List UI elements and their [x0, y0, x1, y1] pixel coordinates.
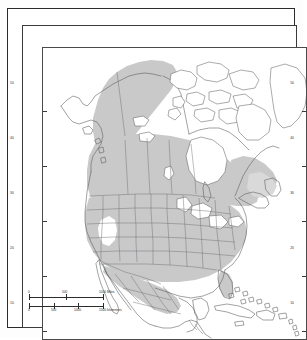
lat-tick-10-left [43, 331, 47, 332]
scale-label-km-500: 500 [51, 309, 56, 312]
lat-tick-50-left [43, 111, 47, 112]
lat-label-20-right: 20 [290, 247, 294, 250]
lat-label-50-right: 50 [290, 82, 294, 85]
outer-frame: .coast{fill:none;stroke:#55565a;stroke-w… [7, 8, 295, 328]
lat-label-30-right: 30 [290, 192, 294, 195]
lat-tick-20-left [43, 276, 47, 277]
lat-label-10-right: 10 [290, 302, 294, 305]
scale-label-km-1000: 1000 [74, 309, 81, 312]
lat-tick-40-right [302, 166, 306, 167]
scale-label-km-0: 0 [28, 309, 30, 312]
scale-tick-mi-0 [29, 294, 30, 300]
lat-label-20-left: 20 [10, 247, 14, 250]
scale-tick-mi-1000 [103, 294, 104, 300]
scale-bar-km-line [29, 306, 103, 307]
lat-label-30-left: 30 [10, 192, 14, 195]
scale-bar: 0 500 1000 Miles 0 500 1000 1500 kilomet… [29, 290, 129, 312]
lat-label-40-left: 40 [10, 137, 14, 140]
lat-label-10-left: 10 [10, 302, 14, 305]
scale-tick-mi-500 [66, 294, 67, 300]
lat-tick-20-right [302, 276, 306, 277]
lat-tick-10-right [302, 331, 306, 332]
scale-label-km-1500: 1500 kilometers [99, 309, 122, 312]
lat-tick-30-right [302, 221, 306, 222]
scale-label-mi-500: 500 [62, 291, 67, 294]
inner-frame: .coast{fill:none;stroke:#55565a;stroke-w… [22, 25, 297, 328]
lat-label-50-left: 50 [10, 82, 14, 85]
lat-label-40-right: 40 [290, 137, 294, 140]
lat-tick-40-left [43, 166, 47, 167]
scale-label-mi-0: 0 [28, 291, 30, 294]
scale-label-mi-1000: 1000 Miles [99, 291, 114, 294]
lat-tick-30-left [43, 221, 47, 222]
lat-tick-50-right [302, 111, 306, 112]
